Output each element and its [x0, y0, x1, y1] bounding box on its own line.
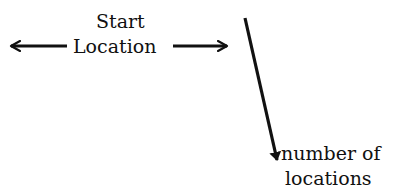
start-label-line2: Location: [73, 37, 156, 56]
end-label-line2: locations: [285, 169, 372, 188]
end-label-line1: number of: [281, 144, 381, 163]
arrow-down-icon: [245, 18, 277, 160]
start-label-line1: Start: [96, 12, 145, 31]
arrows-layer: [0, 0, 401, 193]
